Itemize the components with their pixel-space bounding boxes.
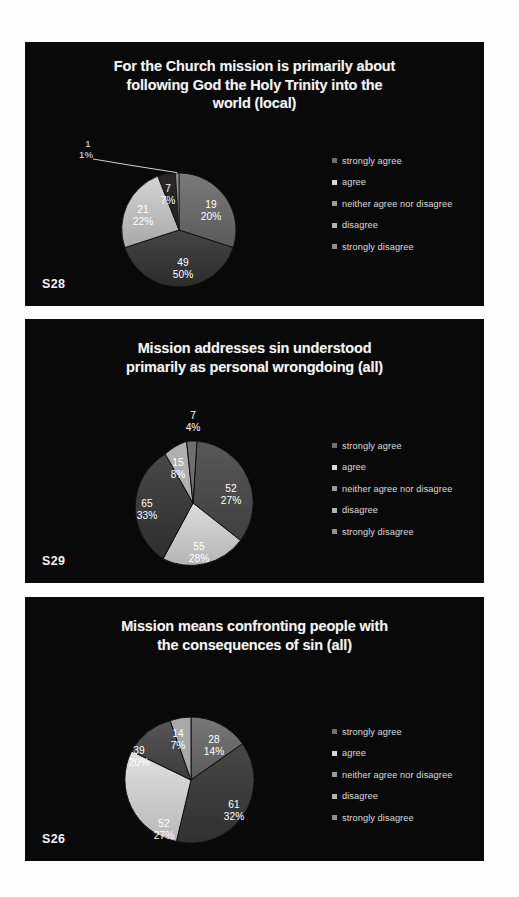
title-line: following God the Holy Trinity into the <box>56 76 453 95</box>
slice-label-value: 21 <box>137 204 149 215</box>
pie-svg: 28 14% 61 32% 52 27% 39 20% 14 7% <box>106 698 336 858</box>
slide-deck-page: For the Church mission is primarily abou… <box>0 0 519 897</box>
legend-item[interactable]: agree <box>332 172 452 194</box>
legend-swatch-icon <box>332 201 337 206</box>
legend-label: disagree <box>342 791 378 801</box>
legend-swatch-icon <box>332 529 337 534</box>
callout-percent: 1% <box>79 149 93 160</box>
slice-label-percent: 7% <box>161 195 176 206</box>
slide-s28: For the Church mission is primarily abou… <box>26 43 483 305</box>
slice-label-percent: 20% <box>129 757 149 768</box>
legend-label: strongly agree <box>342 441 402 451</box>
legend-swatch-icon <box>332 772 337 777</box>
legend-item[interactable]: strongly disagree <box>332 521 452 543</box>
slice-label-value: 52 <box>225 483 237 494</box>
title-line: the consequences of sin (all) <box>56 636 453 655</box>
slide-s26: Mission means confronting people with th… <box>26 598 483 860</box>
legend-item[interactable]: neither agree nor disagree <box>332 193 452 215</box>
legend-item[interactable]: strongly agree <box>332 150 452 172</box>
legend-swatch-icon <box>332 815 337 820</box>
legend-item[interactable]: strongly agree <box>332 435 452 457</box>
slice-label-value: 55 <box>193 541 205 552</box>
legend-swatch-icon <box>332 508 337 513</box>
pie-chart-s29: 52 27% 55 28% 65 33% 15 8% 7 4% <box>121 425 341 575</box>
legend-swatch-icon <box>332 751 337 756</box>
slice-label-percent: 33% <box>137 510 157 521</box>
slide-number: S28 <box>42 277 65 291</box>
slice-label-percent: 27% <box>221 495 241 506</box>
legend-item[interactable]: neither agree nor disagree <box>332 478 452 500</box>
slice-label-value: 14 <box>172 728 184 739</box>
slide-number: S26 <box>42 832 65 846</box>
legend-item[interactable]: strongly agree <box>332 721 452 743</box>
legend-item[interactable]: disagree <box>332 500 452 522</box>
slide-title: For the Church mission is primarily abou… <box>56 57 453 113</box>
legend-label: agree <box>342 177 366 187</box>
slice-label-value: 15 <box>172 457 184 468</box>
legend-swatch-icon <box>332 486 337 491</box>
slice-label-value: 49 <box>177 257 189 268</box>
legend-item[interactable]: agree <box>332 457 452 479</box>
legend-swatch-icon <box>332 465 337 470</box>
slice-label-percent: 28% <box>189 553 209 564</box>
slice-label-percent: 22% <box>133 216 153 227</box>
slice-label-percent: 4% <box>186 422 201 433</box>
slice-label-value: 65 <box>141 498 153 509</box>
slice-label-percent: 7% <box>171 740 186 751</box>
slice-label-value: 7 <box>165 183 171 194</box>
legend-swatch-icon <box>332 729 337 734</box>
legend-item[interactable]: agree <box>332 743 452 765</box>
legend-swatch-icon <box>332 158 337 163</box>
slice-label-percent: 14% <box>204 746 224 757</box>
pie-svg: 19 20% 49 50% 21 22% 7 7% 1 1% <box>111 163 341 298</box>
legend-label: disagree <box>342 220 378 230</box>
slice-label-percent: 8% <box>171 469 186 480</box>
title-line: primarily as personal wrongdoing (all) <box>56 358 453 377</box>
chart-legend: strongly agree agree neither agree nor d… <box>332 150 452 258</box>
legend-label: neither agree nor disagree <box>342 770 452 780</box>
slide-title: Mission means confronting people with th… <box>56 617 453 654</box>
legend-label: disagree <box>342 505 378 515</box>
pie-chart-s28: 19 20% 49 50% 21 22% 7 7% 1 1% <box>111 163 341 298</box>
legend-label: strongly disagree <box>342 242 414 252</box>
legend-label: agree <box>342 748 366 758</box>
slice-label-percent: 50% <box>173 269 193 280</box>
chart-legend: strongly agree agree neither agree nor d… <box>332 435 452 543</box>
legend-item[interactable]: disagree <box>332 215 452 237</box>
pie-chart-s26: 28 14% 61 32% 52 27% 39 20% 14 7% <box>106 698 336 858</box>
slide-number: S29 <box>42 554 65 568</box>
legend-label: strongly disagree <box>342 813 414 823</box>
legend-label: strongly disagree <box>342 527 414 537</box>
slice-label-value: 19 <box>205 199 217 210</box>
legend-item[interactable]: disagree <box>332 786 452 808</box>
title-line: Mission means confronting people with <box>56 617 453 636</box>
legend-label: neither agree nor disagree <box>342 484 452 494</box>
slide-s29: Mission addresses sin understood primari… <box>26 320 483 582</box>
slice-label-percent: 32% <box>224 811 244 822</box>
legend-swatch-icon <box>332 180 337 185</box>
legend-item[interactable]: neither agree nor disagree <box>332 764 452 786</box>
slice-label-value: 28 <box>208 734 220 745</box>
slice-label-value: 61 <box>228 799 240 810</box>
legend-label: agree <box>342 462 366 472</box>
slice-label-percent: 20% <box>201 211 221 222</box>
title-line: world (local) <box>56 94 453 113</box>
slice-label-value: 39 <box>133 745 145 756</box>
legend-item[interactable]: strongly disagree <box>332 807 452 829</box>
slice-label-percent: 27% <box>154 830 174 841</box>
slice-label-value: 7 <box>190 410 196 421</box>
legend-swatch-icon <box>332 443 337 448</box>
callout-value: 1 <box>85 138 90 149</box>
title-line: For the Church mission is primarily abou… <box>56 57 453 76</box>
slice-label-value: 52 <box>158 818 170 829</box>
legend-label: strongly agree <box>342 727 402 737</box>
legend-item[interactable]: strongly disagree <box>332 236 452 258</box>
title-line: Mission addresses sin understood <box>56 339 453 358</box>
legend-swatch-icon <box>332 794 337 799</box>
slide-title: Mission addresses sin understood primari… <box>56 339 453 376</box>
pie-svg: 52 27% 55 28% 65 33% 15 8% 7 4% <box>121 425 341 575</box>
legend-label: strongly agree <box>342 156 402 166</box>
legend-label: neither agree nor disagree <box>342 199 452 209</box>
legend-swatch-icon <box>332 223 337 228</box>
legend-swatch-icon <box>332 244 337 249</box>
